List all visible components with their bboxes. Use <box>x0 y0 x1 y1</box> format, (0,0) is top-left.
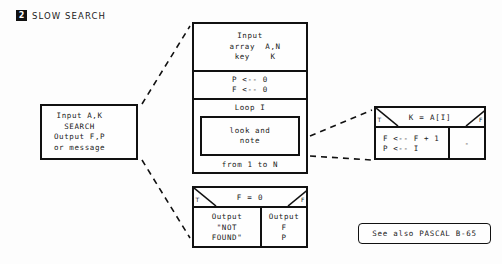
loop-body-box[interactable]: look and note <box>200 116 300 156</box>
summary-box[interactable]: Input A,K SEARCH Output F,P or message <box>40 104 138 160</box>
output-decision-true-branch: Output "NOT FOUND" <box>194 208 260 248</box>
connector-loopbody-to-decision-bottom <box>310 156 372 160</box>
inner-decision-true-branch: F <-- F + 1 P <-- I <box>376 128 448 160</box>
output-decision-body: Output "NOT FOUND" Output F P <box>194 206 306 248</box>
inner-decision-condition: K = A[I] <box>376 108 484 126</box>
inner-decision-body: F <-- F + 1 P <-- I - <box>376 126 484 160</box>
page-title: 2 SLOW SEARCH <box>16 10 106 21</box>
connector-summary-to-input <box>142 26 190 104</box>
connector-summary-to-output <box>142 160 190 238</box>
title-badge: 2 <box>16 10 27 21</box>
main-structure-box[interactable]: Input array A,N key K P <-- 0 F <-- 0 Lo… <box>192 22 308 174</box>
output-decision-condition: F = 0 <box>194 188 306 206</box>
loop-footer: from 1 to N <box>194 156 306 174</box>
diagram-canvas: 2 SLOW SEARCH Input A,K SEARCH Output F,… <box>0 0 502 264</box>
connector-loopbody-to-decision-top <box>310 110 372 136</box>
title-label: SLOW SEARCH <box>32 11 106 21</box>
inner-decision-false-branch: - <box>448 128 484 160</box>
output-decision-box[interactable]: T F = 0 F Output "NOT FOUND" Output F P <box>192 186 308 248</box>
inner-decision-box[interactable]: T K = A[I] F F <-- F + 1 P <-- I - <box>374 106 486 160</box>
input-block: Input array A,N key K <box>194 24 306 70</box>
output-decision-false-label: F <box>301 196 304 203</box>
loop-body-wrapper: look and note <box>194 116 306 156</box>
inner-decision-false-label: F <box>479 116 482 123</box>
inner-decision-true-text: F <-- F + 1 P <-- I <box>383 134 439 155</box>
summary-box-text: Input A,K SEARCH Output F,P or message <box>54 106 136 158</box>
inner-decision-header: T K = A[I] F <box>376 108 484 126</box>
output-decision-header: T F = 0 F <box>194 188 306 206</box>
initialization-block: P <-- 0 F <-- 0 <box>194 70 306 98</box>
output-decision-false-branch: Output F P <box>260 208 306 248</box>
loop-header: Loop I <box>194 98 306 116</box>
see-also-note[interactable]: See also PASCAL B-65 <box>358 223 491 244</box>
